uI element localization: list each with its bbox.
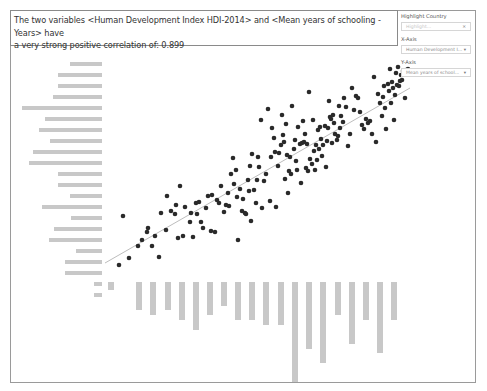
- y-hist-bar[interactable]: [53, 95, 102, 99]
- x-hist-bar[interactable]: [320, 282, 326, 363]
- data-point[interactable]: [183, 205, 188, 210]
- data-point[interactable]: [390, 80, 395, 85]
- x-hist-bar[interactable]: [377, 282, 383, 353]
- data-point[interactable]: [336, 134, 341, 139]
- data-point[interactable]: [117, 263, 122, 268]
- y-hist-bar[interactable]: [58, 73, 102, 77]
- data-point[interactable]: [314, 143, 319, 148]
- y-hist-bar[interactable]: [65, 260, 102, 264]
- x-axis-dropdown[interactable]: Human Development I... ▾: [401, 45, 471, 54]
- data-point[interactable]: [217, 201, 222, 206]
- data-point[interactable]: [262, 179, 267, 184]
- x-hist-bar[interactable]: [292, 282, 298, 382]
- data-point[interactable]: [227, 204, 232, 209]
- data-point[interactable]: [370, 132, 375, 137]
- x-hist-bar[interactable]: [207, 282, 213, 315]
- x-hist-bar[interactable]: [306, 282, 312, 349]
- data-point[interactable]: [195, 212, 200, 217]
- data-point[interactable]: [372, 75, 377, 80]
- data-point[interactable]: [332, 121, 337, 126]
- data-point[interactable]: [320, 154, 325, 159]
- data-point[interactable]: [374, 140, 379, 145]
- x-hist-bar[interactable]: [349, 282, 355, 344]
- data-point[interactable]: [381, 95, 386, 100]
- data-point[interactable]: [310, 162, 315, 167]
- data-point[interactable]: [335, 138, 340, 143]
- y-hist-bar[interactable]: [58, 172, 102, 176]
- data-point[interactable]: [296, 125, 301, 130]
- data-point[interactable]: [293, 138, 298, 143]
- y-hist-bar[interactable]: [22, 106, 102, 110]
- data-point[interactable]: [226, 191, 231, 196]
- y-hist-bar[interactable]: [76, 249, 102, 253]
- data-point[interactable]: [164, 228, 169, 233]
- data-point[interactable]: [276, 164, 281, 169]
- y-hist-bar[interactable]: [94, 282, 102, 286]
- data-point[interactable]: [249, 219, 254, 224]
- data-point[interactable]: [341, 120, 346, 125]
- data-point[interactable]: [394, 71, 399, 76]
- data-point[interactable]: [188, 220, 193, 225]
- data-point[interactable]: [181, 234, 186, 239]
- x-hist-bar[interactable]: [249, 282, 255, 320]
- data-point[interactable]: [266, 107, 271, 112]
- data-point[interactable]: [358, 110, 363, 115]
- data-point[interactable]: [169, 209, 174, 214]
- data-point[interactable]: [376, 92, 381, 97]
- y-hist-bar[interactable]: [65, 271, 102, 275]
- y-hist-bar[interactable]: [49, 238, 102, 242]
- data-point[interactable]: [173, 212, 178, 217]
- x-hist-bar[interactable]: [150, 282, 156, 315]
- data-point[interactable]: [362, 127, 367, 132]
- data-point[interactable]: [189, 211, 194, 216]
- data-point[interactable]: [281, 133, 286, 138]
- data-point[interactable]: [247, 189, 252, 194]
- data-point[interactable]: [241, 197, 246, 202]
- y-hist-bar[interactable]: [54, 227, 102, 231]
- x-hist-bar[interactable]: [335, 282, 341, 315]
- y-hist-bar[interactable]: [70, 194, 102, 198]
- x-hist-bar[interactable]: [235, 282, 241, 320]
- data-point[interactable]: [280, 113, 285, 118]
- data-point[interactable]: [392, 118, 397, 123]
- y-hist-bar[interactable]: [58, 84, 102, 88]
- data-point[interactable]: [288, 155, 293, 160]
- data-point[interactable]: [292, 147, 297, 152]
- data-point[interactable]: [308, 157, 313, 162]
- x-hist-bar[interactable]: [391, 282, 397, 320]
- data-point[interactable]: [311, 118, 316, 123]
- data-point[interactable]: [136, 244, 141, 249]
- data-point[interactable]: [337, 104, 342, 109]
- data-point[interactable]: [229, 172, 234, 177]
- data-point[interactable]: [391, 86, 396, 91]
- data-point[interactable]: [344, 105, 349, 110]
- data-point[interactable]: [146, 226, 151, 231]
- y-hist-bar[interactable]: [33, 150, 102, 154]
- x-hist-bar[interactable]: [136, 282, 142, 310]
- data-point[interactable]: [248, 164, 253, 169]
- data-point[interactable]: [140, 238, 145, 243]
- y-hist-bar[interactable]: [29, 161, 102, 165]
- data-point[interactable]: [178, 184, 183, 189]
- x-hist-bar[interactable]: [108, 282, 114, 290]
- y-hist-bar[interactable]: [50, 139, 102, 143]
- data-point[interactable]: [364, 117, 369, 122]
- data-point[interactable]: [342, 96, 347, 101]
- data-point[interactable]: [346, 144, 351, 149]
- data-point[interactable]: [222, 210, 227, 215]
- data-point[interactable]: [326, 126, 331, 131]
- data-point[interactable]: [383, 106, 388, 111]
- data-point[interactable]: [286, 191, 291, 196]
- data-point[interactable]: [250, 152, 255, 157]
- data-point[interactable]: [321, 143, 326, 148]
- data-point[interactable]: [238, 187, 243, 192]
- data-point[interactable]: [270, 126, 275, 131]
- data-point[interactable]: [236, 238, 241, 243]
- data-point[interactable]: [254, 201, 259, 206]
- data-point[interactable]: [307, 90, 312, 95]
- data-point[interactable]: [199, 220, 204, 225]
- data-point[interactable]: [268, 199, 273, 204]
- data-point[interactable]: [256, 155, 261, 160]
- x-hist-bar[interactable]: [165, 282, 171, 310]
- y-hist-bar[interactable]: [71, 216, 102, 220]
